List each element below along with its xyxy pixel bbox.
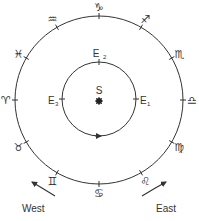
east-label: East <box>156 203 176 214</box>
cancer-icon: ♋ <box>94 187 104 200</box>
svg-text:E: E <box>140 95 147 106</box>
svg-text:2: 2 <box>103 54 107 60</box>
earth-label-e2: E 2 <box>93 48 107 60</box>
pisces-icon: ♓ <box>14 48 24 61</box>
svg-text:E: E <box>93 48 100 59</box>
zodiac-tick-taurus <box>24 141 29 144</box>
sun-icon <box>95 97 103 105</box>
earth-label-e1: E 1 <box>140 95 151 107</box>
zodiac-tick-pisces <box>24 57 29 60</box>
west-label: West <box>22 203 45 214</box>
libra-icon: ♎ <box>187 94 197 107</box>
aries-icon: ♈ <box>1 94 11 107</box>
svg-text:3: 3 <box>55 101 59 107</box>
scorpio-icon: ♏ <box>175 48 185 61</box>
svg-text:E: E <box>48 95 55 106</box>
zodiac-tick-scorpio <box>169 57 174 60</box>
svg-text:1: 1 <box>147 101 151 107</box>
zodiac-diagram: ♑♐♏♎♍♌♋♊♉♈♓♒ S E 2 E 1 E 3 West East <box>0 0 199 221</box>
capricorn-icon: ♑ <box>94 1 104 14</box>
virgo-icon: ♍ <box>175 141 185 154</box>
aquarius-icon: ♒ <box>48 13 58 26</box>
taurus-icon: ♉ <box>14 141 24 154</box>
zodiac-tick-virgo <box>169 141 174 144</box>
earth-label-e3: E 3 <box>48 95 59 107</box>
gemini-icon: ♊ <box>48 175 58 188</box>
leo-icon: ♌ <box>141 175 151 188</box>
sagittarius-icon: ♐ <box>141 13 151 26</box>
sun-label: S <box>96 85 103 96</box>
